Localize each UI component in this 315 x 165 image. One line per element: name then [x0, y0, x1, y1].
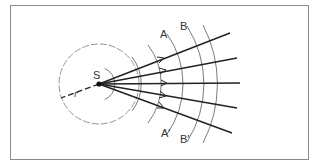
- ray-1: [99, 33, 230, 84]
- ray-5: [99, 84, 232, 133]
- label-b-prime: B′: [180, 133, 189, 145]
- ray-4: [99, 84, 237, 108]
- label-radius: r: [74, 88, 78, 99]
- radius-line: [61, 84, 99, 98]
- label-a: A: [160, 28, 168, 40]
- label-source: S: [93, 69, 100, 81]
- label-b: B: [180, 20, 187, 32]
- diagram-canvas: S r A B A′ B′: [0, 0, 315, 165]
- ray-3: [99, 83, 240, 84]
- source-point: [96, 81, 101, 86]
- label-a-prime: A′: [161, 127, 170, 139]
